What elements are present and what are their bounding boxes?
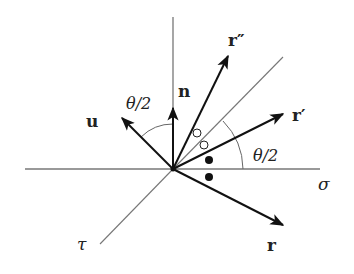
vector-r xyxy=(173,169,283,225)
label-theta-half-lower: θ/2 xyxy=(253,146,278,165)
label-tau: τ xyxy=(77,234,87,254)
angle-arc-u-n xyxy=(141,124,173,137)
filled-dot-marker xyxy=(205,156,213,164)
vector-u xyxy=(122,118,173,169)
filled-dot-marker xyxy=(205,173,213,181)
angle-arc-sigma-rprime xyxy=(223,121,243,169)
label-r: r xyxy=(267,235,277,255)
label-sigma: σ xyxy=(318,174,330,194)
origin-point xyxy=(171,167,176,172)
open-circle-marker xyxy=(200,141,208,149)
open-circle-marker xyxy=(193,129,201,137)
label-r-double-prime: r″ xyxy=(228,30,245,50)
label-n: n xyxy=(178,81,190,101)
vector-r-double-prime xyxy=(173,56,228,169)
label-theta-half-upper: θ/2 xyxy=(126,94,151,113)
reflection-diagram: r″ n u r′ r θ/2 θ/2 σ τ xyxy=(0,0,354,274)
label-u: u xyxy=(86,111,98,131)
label-r-prime: r′ xyxy=(292,105,306,125)
tau-axis xyxy=(100,169,173,244)
